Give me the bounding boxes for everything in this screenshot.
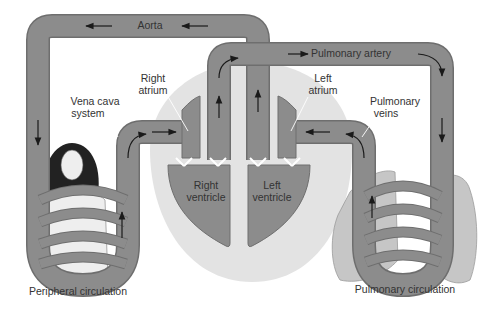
svg-text:atrium: atrium	[138, 84, 167, 96]
label-peripheral-circulation: Peripheral circulation	[29, 285, 127, 297]
svg-text:veins: veins	[374, 107, 399, 119]
label-left-atrium: Left	[314, 72, 332, 84]
label-right-ventricle: Right	[194, 179, 219, 191]
label-pulmonary-artery: Pulmonary artery	[311, 47, 392, 59]
svg-text:atrium: atrium	[308, 84, 337, 96]
circulation-diagram: Aorta Pulmonary artery Right atrium Left…	[0, 0, 494, 309]
label-vena-cava: Vena cava	[70, 95, 119, 107]
label-pulmonary-veins: Pulmonary	[370, 95, 421, 107]
svg-text:system: system	[71, 107, 105, 119]
label-right-atrium: Right	[141, 72, 166, 84]
label-aorta: Aorta	[137, 19, 162, 31]
label-pulmonary-circulation: Pulmonary circulation	[355, 283, 456, 295]
svg-text:ventricle: ventricle	[186, 191, 225, 203]
label-left-ventricle: Left	[263, 179, 281, 191]
svg-text:ventricle: ventricle	[252, 191, 291, 203]
